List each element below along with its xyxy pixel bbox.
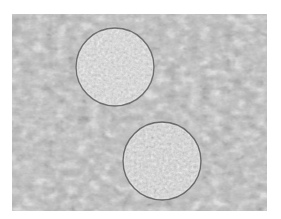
micrograph: Two spherical cells under a microscope — [12, 14, 267, 211]
upper-cell — [76, 28, 154, 106]
micrograph-svg — [12, 14, 267, 211]
lower-cell — [123, 122, 201, 200]
